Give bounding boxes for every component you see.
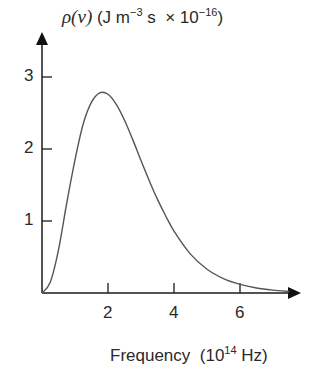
x-tick-label: 2 bbox=[103, 303, 112, 323]
x-axis-arrow-icon bbox=[288, 287, 301, 299]
y-axis-arrow-icon bbox=[36, 32, 48, 45]
x-label-text: Frequency (10 bbox=[110, 346, 224, 365]
y-tick-label: 3 bbox=[24, 66, 33, 86]
y-units-mid: s × 10 bbox=[143, 8, 199, 27]
y-units-exp: −3 bbox=[130, 6, 143, 18]
x-label-exp: 14 bbox=[224, 344, 236, 356]
y-units-scale-exp: −16 bbox=[199, 6, 218, 18]
x-tick-label: 6 bbox=[235, 303, 244, 323]
x-tick-label: 4 bbox=[169, 303, 178, 323]
y-units-prefix: (J m bbox=[97, 8, 130, 27]
spectral-density-curve bbox=[42, 92, 290, 293]
y-tick-label: 1 bbox=[24, 210, 33, 230]
x-ticks bbox=[108, 283, 240, 293]
y-units-suffix: ) bbox=[217, 8, 223, 27]
y-tick-label: 2 bbox=[24, 138, 33, 158]
x-label-suffix: Hz) bbox=[237, 346, 268, 365]
y-axis-label: ρ(ν) (J m−3 s × 10−16) bbox=[62, 6, 223, 28]
x-axis-label: Frequency (1014 Hz) bbox=[110, 346, 268, 366]
axes bbox=[36, 32, 301, 299]
y-ticks bbox=[42, 77, 52, 221]
chart-canvas bbox=[0, 0, 321, 373]
y-axis-symbol: ρ(ν) bbox=[62, 6, 92, 27]
